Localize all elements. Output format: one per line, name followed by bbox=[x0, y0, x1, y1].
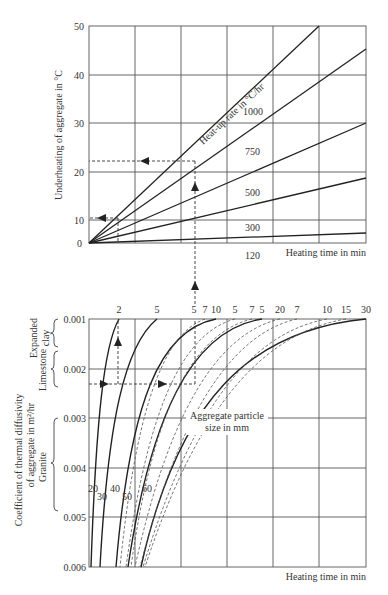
y-tick: 0.006 bbox=[64, 562, 87, 573]
lower-chart: 0.001 0.002 0.003 0.004 0.005 0.006 Coef… bbox=[13, 304, 371, 582]
diffusivity-curves bbox=[91, 319, 366, 567]
top-label: 30 bbox=[361, 304, 371, 315]
figure: 50 40 30 20 10 0 Underheating of aggrega… bbox=[0, 0, 388, 595]
rate-label: 300 bbox=[245, 222, 260, 233]
top-label: 5 bbox=[192, 304, 197, 315]
rate-label: 120 bbox=[245, 250, 260, 261]
group-label: Limestone bbox=[37, 348, 48, 391]
upper-y-ticks: 50 40 30 20 10 0 bbox=[74, 21, 84, 249]
upper-chart: 50 40 30 20 10 0 Underheating of aggrega… bbox=[53, 21, 366, 305]
top-label: 5 bbox=[233, 304, 238, 315]
brace-limestone bbox=[51, 351, 58, 387]
y-tick: 20 bbox=[74, 167, 84, 178]
bottom-label: 60 bbox=[142, 483, 152, 494]
curve-40 bbox=[116, 319, 216, 567]
brace-granite bbox=[51, 418, 58, 511]
arrow-up-icon bbox=[191, 182, 199, 191]
y-tick: 0.005 bbox=[64, 512, 87, 523]
y-tick: 50 bbox=[74, 21, 84, 32]
top-label: 7 bbox=[203, 304, 208, 315]
arrow-left-icon bbox=[97, 214, 106, 222]
top-size-labels: 2 5 5 7 10 5 7 5 20 7 10 15 30 bbox=[117, 304, 372, 315]
rate-label: 500 bbox=[245, 187, 260, 198]
arrow-up-icon bbox=[191, 281, 199, 290]
annotation-line2: size in mm bbox=[205, 422, 249, 433]
arrow-left-icon bbox=[140, 157, 149, 165]
bottom-label: 50 bbox=[122, 491, 132, 502]
line-120 bbox=[89, 233, 366, 243]
upper-x-label: Heating time in min bbox=[286, 247, 366, 258]
arrow-right-icon bbox=[158, 380, 167, 388]
top-label: 10 bbox=[211, 304, 221, 315]
upper-dashed-guides bbox=[89, 161, 195, 305]
bottom-label: 30 bbox=[97, 491, 107, 502]
group-label: Granite bbox=[37, 451, 48, 482]
line-500 bbox=[89, 123, 366, 243]
y-tick: 0.003 bbox=[64, 413, 87, 424]
annotation-line1: Aggregate particle bbox=[190, 410, 265, 421]
upper-y-label: Underheating of aggregate in °C bbox=[53, 70, 64, 200]
line-300 bbox=[89, 178, 366, 243]
top-label: 5 bbox=[155, 304, 160, 315]
brace-expanded-clay bbox=[51, 319, 58, 347]
top-label: 10 bbox=[322, 304, 332, 315]
lower-y-label-line1: Coefficient of thermal diffusivity bbox=[13, 394, 24, 527]
top-label: 20 bbox=[275, 304, 285, 315]
group-braces bbox=[51, 319, 58, 511]
lower-y-ticks: 0.001 0.002 0.003 0.004 0.005 0.006 bbox=[64, 314, 87, 573]
y-tick: 40 bbox=[74, 70, 84, 81]
top-label: 2 bbox=[117, 304, 122, 315]
y-tick: 0.002 bbox=[64, 364, 87, 375]
y-tick: 30 bbox=[74, 118, 84, 129]
y-tick: 0.001 bbox=[64, 314, 87, 325]
y-tick: 0.004 bbox=[64, 463, 87, 474]
top-label: 5 bbox=[260, 304, 265, 315]
dashed-curves bbox=[120, 319, 346, 567]
top-label: 7 bbox=[295, 304, 300, 315]
top-label: 7 bbox=[250, 304, 255, 315]
curve-20 bbox=[91, 319, 119, 567]
lower-grid bbox=[89, 319, 366, 567]
line-750 bbox=[89, 49, 366, 243]
y-tick: 10 bbox=[74, 215, 84, 226]
curve-60 bbox=[141, 319, 366, 567]
group-label: clay bbox=[40, 330, 51, 347]
arrow-up-icon bbox=[114, 337, 122, 346]
rate-label: 1000 bbox=[243, 106, 263, 117]
rate-lines bbox=[89, 26, 366, 243]
top-label: 15 bbox=[341, 304, 351, 315]
arrow-right-icon bbox=[100, 380, 109, 388]
lower-x-label: Heating time in min bbox=[286, 571, 366, 582]
bottom-label: 40 bbox=[110, 483, 120, 494]
y-tick: 0 bbox=[77, 238, 82, 249]
rate-label: 750 bbox=[245, 146, 260, 157]
lower-y-label-line2: of aggregate in m²/hr bbox=[25, 402, 36, 487]
